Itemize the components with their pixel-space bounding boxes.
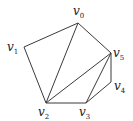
vertex-label-v0: v0 <box>73 4 84 20</box>
triangulation-diagram: v0v1v2v3v4v5 <box>0 0 133 121</box>
edge-v3-v4 <box>86 82 111 103</box>
vertex-label-v3: v3 <box>79 105 90 121</box>
edge-v0-v5 <box>78 23 111 53</box>
vertex-label-v4: v4 <box>114 79 126 95</box>
edge-v1-v2 <box>24 47 46 103</box>
vertex-label-v2: v2 <box>38 105 49 121</box>
edge-v3-v5 <box>86 53 111 103</box>
vertex-label-v5: v5 <box>113 46 124 62</box>
edges-group <box>24 23 111 103</box>
vertex-label-v1: v1 <box>7 40 18 56</box>
